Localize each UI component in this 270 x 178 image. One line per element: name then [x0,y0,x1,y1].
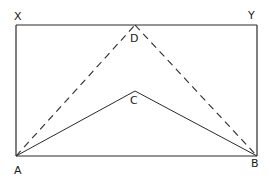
label-x: X [14,10,22,23]
label-d: D [130,32,138,45]
segment-ac [16,91,135,156]
label-a: A [14,164,22,177]
segment-cb [135,91,257,156]
label-b: B [251,157,259,170]
label-y: Y [247,9,255,22]
diagram-svg: X Y D C A B [0,0,270,178]
segment-db-dashed [135,25,257,156]
label-c: C [130,94,138,107]
geometry-diagram: X Y D C A B [0,0,270,178]
segment-ad-dashed [16,25,135,156]
